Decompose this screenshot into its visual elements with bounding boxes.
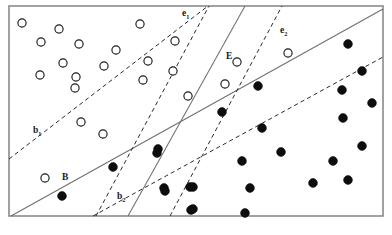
data-point-class-open xyxy=(136,20,144,28)
data-point-class-filled xyxy=(58,192,67,201)
label-b1-subscript: 1 xyxy=(38,130,41,137)
data-point-class-filled xyxy=(344,40,353,49)
data-point-class-filled xyxy=(218,108,227,117)
data-point-class-open xyxy=(59,59,67,67)
data-point-class-open xyxy=(221,80,229,88)
data-point-class-filled xyxy=(338,86,347,95)
label-e2-subscript: 2 xyxy=(284,30,287,37)
data-point-class-filled xyxy=(254,82,263,91)
data-point-class-filled xyxy=(246,184,255,193)
data-point-class-open xyxy=(144,57,152,65)
data-point-class-open xyxy=(112,46,120,54)
data-point-class-filled xyxy=(277,148,286,157)
data-point-class-filled xyxy=(238,157,247,166)
data-point-class-filled xyxy=(258,124,267,133)
data-point-class-open xyxy=(77,118,85,126)
label-B: B xyxy=(62,172,69,182)
data-point-class-open xyxy=(55,25,63,33)
data-point-class-open xyxy=(284,49,292,57)
data-point-class-filled xyxy=(153,149,162,158)
label-E: E xyxy=(226,51,232,61)
data-point-class-filled xyxy=(358,142,367,151)
data-point-class-filled xyxy=(109,163,118,172)
data-point-class-open xyxy=(99,130,107,138)
data-point-class-open xyxy=(184,92,192,100)
data-point-class-open xyxy=(18,19,26,27)
data-point-class-open xyxy=(233,58,241,66)
data-point-class-open xyxy=(41,174,49,182)
data-point-class-open xyxy=(100,62,108,70)
scatter-plot-svg: b1b2e1e2BE xyxy=(0,0,392,235)
data-point-class-open xyxy=(139,76,147,84)
data-point-class-filled xyxy=(309,179,318,188)
figure-caption xyxy=(0,224,392,235)
data-point-class-open xyxy=(75,40,83,48)
data-point-class-open xyxy=(169,67,177,75)
data-point-class-filled xyxy=(339,114,348,123)
data-point-class-open xyxy=(36,71,44,79)
data-point-class-open xyxy=(171,37,179,45)
data-point-class-filled xyxy=(358,67,367,76)
data-point-class-filled xyxy=(186,183,195,192)
label-e1-subscript: 1 xyxy=(186,13,189,20)
data-point-class-filled xyxy=(161,187,170,196)
data-point-class-filled xyxy=(187,206,196,215)
data-point-class-filled xyxy=(368,99,377,108)
data-point-class-filled xyxy=(344,176,353,185)
data-point-class-filled xyxy=(329,157,338,166)
data-point-class-open xyxy=(72,73,80,81)
data-point-class-filled xyxy=(241,209,250,218)
data-point-class-open xyxy=(37,38,45,46)
label-b2-subscript: 2 xyxy=(122,196,125,203)
figure-container: b1b2e1e2BE xyxy=(0,0,392,235)
data-point-class-open xyxy=(71,84,79,92)
